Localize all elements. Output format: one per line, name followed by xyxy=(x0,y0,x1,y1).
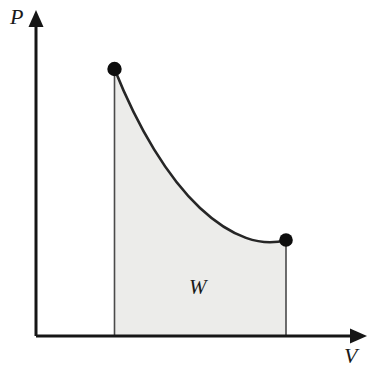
x-axis-label: V xyxy=(344,345,357,367)
work-region-label: W xyxy=(189,277,207,298)
start-point-marker xyxy=(107,62,121,76)
pv-diagram-canvas xyxy=(0,0,392,385)
y-axis-label: P xyxy=(10,6,23,28)
y-axis-arrowhead-icon xyxy=(29,10,44,27)
end-point-marker xyxy=(279,233,293,247)
x-axis-arrowhead-icon xyxy=(350,329,367,344)
pv-diagram-figure: P V W xyxy=(0,0,392,385)
